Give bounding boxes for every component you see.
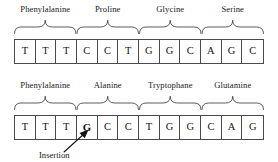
base-cell: G: [160, 40, 181, 63]
base-cell: T: [15, 116, 36, 139]
codon-label-glutamine: Glutamine: [202, 78, 265, 92]
base-cell: C: [77, 40, 98, 63]
base-cell: T: [36, 116, 57, 139]
insertion-label: Insertion: [39, 150, 70, 161]
codon-label-alanine: Alanine: [77, 78, 140, 92]
codon-label-glycine: Glycine: [139, 2, 202, 16]
base-cell: T: [56, 40, 77, 63]
base-cell: C: [180, 40, 201, 63]
top-base-row: T T T C C T G G C A G C: [14, 39, 264, 64]
base-cell: T: [15, 40, 36, 63]
base-cell: G: [242, 116, 263, 139]
base-cell: C: [118, 116, 139, 139]
mutated-sequence-diagram: Phenylalanine Alanine Tryptophane Glutam…: [0, 76, 278, 162]
bottom-codon-braces: [0, 94, 278, 112]
codon-label-tryptophane: Tryptophane: [139, 78, 202, 92]
base-cell: T: [139, 116, 160, 139]
bottom-base-row: T T T G C C T G G C A G: [14, 115, 264, 140]
base-cell: C: [242, 40, 263, 63]
codon-label-serine: Serine: [202, 2, 265, 16]
base-cell: C: [201, 116, 222, 139]
base-cell: C: [98, 116, 119, 139]
base-cell: A: [222, 116, 243, 139]
top-codon-labels: Phenylalanine Proline Glycine Serine: [0, 2, 278, 17]
original-sequence-diagram: Phenylalanine Proline Glycine Serine T T…: [0, 0, 278, 78]
base-cell: G: [160, 116, 181, 139]
top-codon-braces: [0, 18, 278, 36]
codon-label-phenylalanine-bottom: Phenylalanine: [14, 78, 77, 92]
base-cell: T: [118, 40, 139, 63]
base-cell: G: [180, 116, 201, 139]
base-cell: A: [201, 40, 222, 63]
base-cell: G: [139, 40, 160, 63]
base-cell: T: [36, 40, 57, 63]
base-cell: C: [98, 40, 119, 63]
codon-label-proline: Proline: [77, 2, 140, 16]
codon-label-phenylalanine-top: Phenylalanine: [14, 2, 77, 16]
base-cell: T: [56, 116, 77, 139]
inserted-base-cell: G: [77, 116, 98, 139]
bottom-codon-labels: Phenylalanine Alanine Tryptophane Glutam…: [0, 78, 278, 93]
base-cell: G: [222, 40, 243, 63]
